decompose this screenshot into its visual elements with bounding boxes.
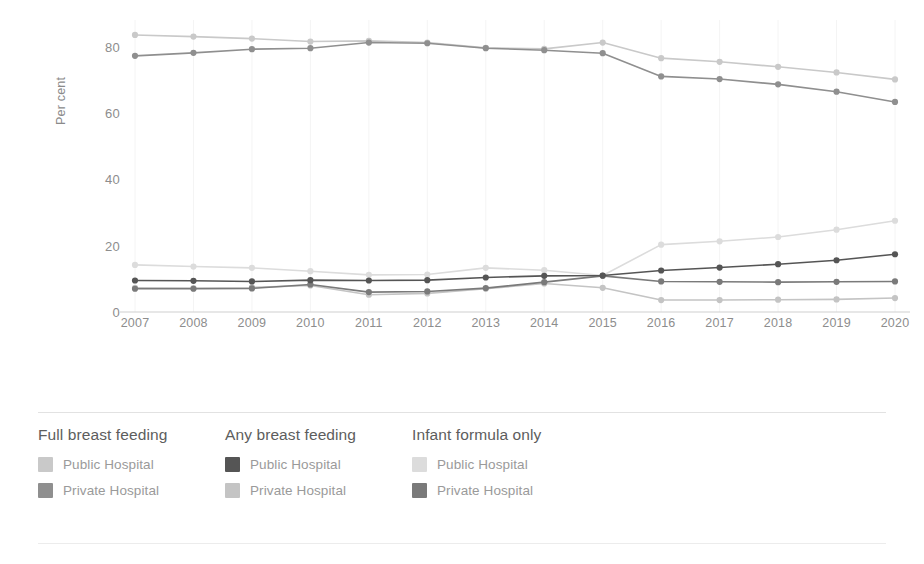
x-tick-label: 2020 [881, 316, 910, 330]
series-line [135, 43, 895, 102]
legend-item[interactable]: Public Hospital [225, 457, 412, 472]
x-tick-label: 2009 [238, 316, 267, 330]
data-point [658, 242, 664, 248]
x-tick-label: 2012 [413, 316, 442, 330]
data-point [658, 267, 664, 273]
data-point [249, 35, 255, 41]
data-point [892, 295, 898, 301]
legend-item[interactable]: Public Hospital [38, 457, 225, 472]
legend-item-label: Private Hospital [63, 483, 159, 498]
data-point [775, 297, 781, 303]
data-point [307, 45, 313, 51]
legend-item[interactable]: Private Hospital [225, 483, 412, 498]
data-point [833, 69, 839, 75]
data-point [366, 289, 372, 295]
legend-item[interactable]: Private Hospital [412, 483, 599, 498]
data-point [833, 279, 839, 285]
data-point [775, 81, 781, 87]
data-point [541, 273, 547, 279]
data-point [366, 272, 372, 278]
data-point [307, 268, 313, 274]
data-point [833, 227, 839, 233]
legend-group-title: Infant formula only [412, 426, 599, 444]
data-point [717, 238, 723, 244]
plot-area [120, 20, 910, 312]
data-point [892, 76, 898, 82]
data-point [132, 277, 138, 283]
x-axis-ticks: 2007200820092010201120122013201420152016… [120, 316, 910, 344]
data-point [132, 286, 138, 292]
legend-group: Full breast feedingPublic HospitalPrivat… [38, 426, 225, 509]
data-point [249, 265, 255, 271]
x-tick-label: 2015 [588, 316, 617, 330]
data-point [483, 285, 489, 291]
data-point [190, 263, 196, 269]
legend-swatch-icon [38, 457, 53, 472]
data-point [190, 278, 196, 284]
data-point [132, 32, 138, 38]
data-point [132, 53, 138, 59]
legend-item[interactable]: Private Hospital [38, 483, 225, 498]
data-point [366, 39, 372, 45]
data-point [249, 46, 255, 52]
series-0 [132, 32, 898, 83]
data-point [775, 64, 781, 70]
data-point [717, 264, 723, 270]
legend-item[interactable]: Public Hospital [412, 457, 599, 472]
data-point [541, 267, 547, 273]
x-tick-label: 2007 [121, 316, 150, 330]
x-tick-label: 2019 [822, 316, 851, 330]
data-point [892, 278, 898, 284]
legend-swatch-icon [412, 457, 427, 472]
data-point [892, 251, 898, 257]
data-point [483, 274, 489, 280]
legend-item-label: Public Hospital [437, 457, 528, 472]
data-point [775, 261, 781, 267]
data-point [424, 40, 430, 46]
series-1 [132, 39, 898, 105]
data-point [658, 55, 664, 61]
legend-item-label: Private Hospital [437, 483, 533, 498]
data-point [775, 234, 781, 240]
data-point [658, 297, 664, 303]
x-tick-label: 2018 [764, 316, 793, 330]
data-point [132, 262, 138, 268]
data-point [600, 272, 606, 278]
data-point [892, 99, 898, 105]
series-4 [132, 218, 898, 279]
legend-item-label: Public Hospital [63, 457, 154, 472]
data-point [366, 277, 372, 283]
data-point [833, 257, 839, 263]
data-point [892, 218, 898, 224]
y-tick-label: 40 [80, 172, 120, 187]
series-line [135, 35, 895, 79]
plot-svg [120, 20, 910, 312]
x-tick-label: 2010 [296, 316, 325, 330]
data-point [600, 50, 606, 56]
legend-swatch-icon [225, 457, 240, 472]
data-point [541, 279, 547, 285]
data-point [424, 277, 430, 283]
data-point [717, 279, 723, 285]
data-point [190, 50, 196, 56]
series-line [135, 276, 895, 292]
data-point [424, 271, 430, 277]
y-tick-label: 20 [80, 238, 120, 253]
data-point [249, 278, 255, 284]
data-point [658, 73, 664, 79]
legend-item-label: Private Hospital [250, 483, 346, 498]
footer-divider [38, 543, 886, 544]
y-tick-label: 0 [80, 305, 120, 320]
data-point [658, 278, 664, 284]
data-point [307, 277, 313, 283]
data-point [600, 39, 606, 45]
data-point [833, 296, 839, 302]
legend-group: Infant formula onlyPublic HospitalPrivat… [412, 426, 599, 509]
x-tick-label: 2017 [705, 316, 734, 330]
legend-group: Any breast feedingPublic HospitalPrivate… [225, 426, 412, 509]
legend-group-title: Any breast feeding [225, 426, 412, 444]
series-3 [132, 280, 898, 303]
legend-swatch-icon [225, 483, 240, 498]
data-point [600, 285, 606, 291]
legend-divider [38, 412, 886, 413]
